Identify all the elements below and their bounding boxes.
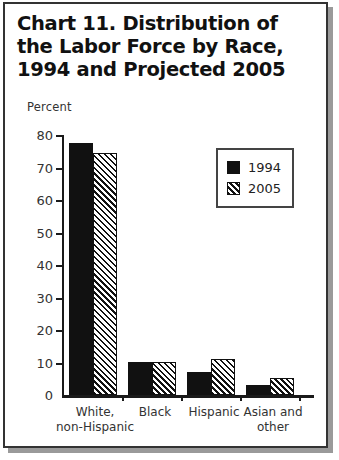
legend-label-1994: 1994 <box>248 161 281 174</box>
bar-2005-black <box>152 362 176 395</box>
category-label-line-1: Asian and <box>243 405 302 419</box>
y-axis-tick-label: 30 <box>36 291 53 304</box>
x-axis-line <box>62 395 314 398</box>
category-label-line-2: other <box>228 420 318 435</box>
chart-legend: 1994 2005 <box>216 148 294 208</box>
category-label-line-2: non-Hispanic <box>50 420 140 435</box>
chart-title: Chart 11. Distribution of the Labor Forc… <box>17 12 317 81</box>
legend-label-2005: 2005 <box>248 182 281 195</box>
legend-item-1994: 1994 <box>227 157 281 178</box>
chart-title-line-3: 1994 and Projected 2005 <box>17 58 317 81</box>
y-axis-tick-label: 50 <box>36 226 53 239</box>
legend-swatch-icon-2005 <box>227 182 240 195</box>
x-axis-tick <box>122 395 124 401</box>
bar-1994-black <box>128 362 152 395</box>
y-axis-tick-label: 10 <box>36 356 53 369</box>
y-axis-tick-label: 20 <box>36 324 53 337</box>
bar-2005-white-non-hispanic <box>93 153 117 395</box>
category-label-line-1: White, <box>76 405 115 419</box>
category-label-line-1: Black <box>139 405 171 419</box>
chart-title-line-1: Chart 11. Distribution of <box>17 12 317 35</box>
y-axis-tick-label: 80 <box>36 129 53 142</box>
bar-2005-hispanic <box>211 359 235 395</box>
legend-item-2005: 2005 <box>227 178 281 199</box>
x-axis-tick <box>299 395 301 401</box>
bar-1994-hispanic <box>187 372 211 395</box>
chart-figure: Chart 11. Distribution of the Labor Forc… <box>3 2 328 448</box>
bar-2005-asian-and-other <box>270 378 294 395</box>
x-axis-category-label-asian-and-other: Asian and other <box>228 405 318 434</box>
bar-1994-asian-and-other <box>246 385 270 395</box>
y-axis-tick-label: 60 <box>36 194 53 207</box>
x-axis-tick <box>181 395 183 401</box>
chart-title-line-2: the Labor Force by Race, <box>17 35 317 58</box>
x-axis-tick <box>240 395 242 401</box>
legend-swatch-icon-1994 <box>227 161 240 174</box>
bar-1994-white-non-hispanic <box>69 143 93 395</box>
y-axis-tick-label: 40 <box>36 259 53 272</box>
y-axis-tick-label: 70 <box>36 161 53 174</box>
y-axis-tick-label: 0 <box>45 389 53 402</box>
y-axis-title: Percent <box>27 100 72 114</box>
